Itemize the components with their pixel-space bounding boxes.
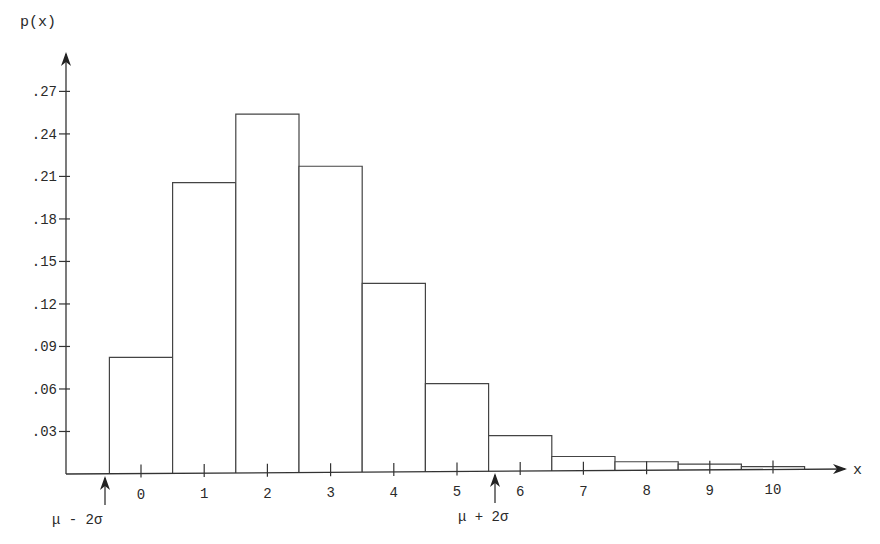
y-tick-label: .21 [32, 169, 57, 185]
histogram-bar [173, 183, 236, 474]
y-tick-label: .06 [32, 382, 57, 398]
y-tick-label: .27 [32, 84, 57, 100]
x-tick-label: 6 [516, 484, 524, 500]
mu-plus-2sigma-label: μ + 2σ [458, 509, 509, 525]
x-axis-label: x [853, 462, 862, 479]
y-tick-label: .18 [32, 212, 57, 228]
y-ticks-group: .03.06.09.12.15.18.21.24.27 [32, 84, 70, 440]
histogram-svg: p(x) .03.06.09.12.15.18.21.24.27 x 01234… [0, 0, 880, 544]
mu-minus-2sigma-label: μ - 2σ [52, 512, 103, 528]
histogram-bar [362, 283, 425, 472]
x-tick-label: 0 [137, 487, 145, 503]
x-tick-label: 9 [706, 483, 714, 499]
histogram-bar [236, 114, 299, 473]
probability-histogram: p(x) .03.06.09.12.15.18.21.24.27 x 01234… [0, 0, 880, 544]
x-tick-label: 2 [263, 486, 271, 502]
x-tick-label: 3 [326, 485, 334, 501]
histogram-bar [109, 357, 172, 473]
histogram-bar [425, 384, 488, 472]
y-tick-label: .24 [32, 127, 57, 143]
y-tick-label: .12 [32, 297, 57, 313]
x-tick-label: 7 [579, 484, 587, 500]
y-tick-label: .15 [32, 254, 57, 270]
histogram-bar [299, 166, 362, 472]
y-axis-label: p(x) [20, 14, 56, 31]
bars-group [109, 114, 804, 474]
x-tick-label: 10 [765, 482, 782, 498]
y-tick-label: .03 [32, 424, 57, 440]
x-tick-label: 5 [453, 484, 461, 500]
x-tick-label: 4 [390, 485, 398, 501]
y-tick-label: .09 [32, 339, 57, 355]
x-tick-label: 1 [200, 486, 208, 502]
x-tick-label: 8 [642, 483, 650, 499]
